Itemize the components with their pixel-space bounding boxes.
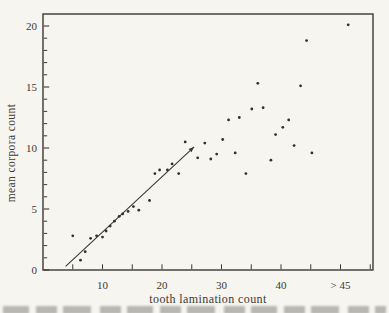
data-point xyxy=(305,39,308,42)
data-point xyxy=(89,237,92,240)
data-point xyxy=(299,84,302,87)
data-point xyxy=(311,152,314,155)
data-point xyxy=(287,119,290,122)
data-point xyxy=(177,172,180,175)
data-point xyxy=(121,213,124,216)
data-point xyxy=(95,234,98,237)
data-point xyxy=(209,158,212,161)
data-point xyxy=(203,142,206,145)
data-point xyxy=(293,144,296,147)
y-tick-label: 0 xyxy=(32,264,38,276)
data-point xyxy=(262,106,265,109)
data-point xyxy=(215,153,218,156)
data-point xyxy=(109,225,112,228)
data-point xyxy=(227,119,230,122)
data-point xyxy=(245,172,248,175)
plot-frame xyxy=(43,14,373,270)
y-tick-label: 15 xyxy=(26,81,38,93)
scatter-plot: 10203040> 4505101520 xyxy=(0,0,389,313)
data-point xyxy=(166,169,169,172)
data-point xyxy=(148,199,151,202)
data-point xyxy=(113,220,116,223)
data-point xyxy=(274,133,277,136)
data-point xyxy=(71,234,74,237)
x-tick-label: > 45 xyxy=(331,279,351,291)
data-point xyxy=(256,82,259,85)
x-tick-label: 40 xyxy=(276,279,288,291)
data-point xyxy=(132,205,135,208)
data-point xyxy=(154,172,157,175)
x-tick-label: 10 xyxy=(97,279,109,291)
data-point xyxy=(196,156,199,159)
data-point xyxy=(171,163,174,166)
data-point xyxy=(184,141,187,144)
cropped-caption-text xyxy=(3,306,386,313)
data-point xyxy=(101,236,104,239)
y-tick-label: 10 xyxy=(26,142,38,154)
data-point xyxy=(127,210,130,213)
data-point xyxy=(234,152,237,155)
data-point xyxy=(238,116,241,119)
y-tick-label: 5 xyxy=(32,203,38,215)
data-point xyxy=(347,23,350,26)
data-point xyxy=(250,108,253,111)
data-point xyxy=(137,209,140,212)
x-tick-label: 30 xyxy=(216,279,228,291)
data-point xyxy=(158,169,161,172)
x-tick-label: 20 xyxy=(157,279,169,291)
data-point xyxy=(105,230,108,233)
data-point xyxy=(79,259,82,262)
data-point xyxy=(270,159,273,162)
x-axis-title: tooth lamination count xyxy=(43,292,373,307)
fit-line xyxy=(66,147,195,267)
y-axis-title: mean corpora count xyxy=(4,53,18,253)
scanned-figure: 10203040> 4505101520 mean corpora count … xyxy=(0,0,389,313)
data-point xyxy=(84,250,87,253)
data-point xyxy=(221,138,224,141)
data-point xyxy=(118,215,121,218)
data-point xyxy=(281,126,284,129)
y-tick-label: 20 xyxy=(26,20,38,32)
